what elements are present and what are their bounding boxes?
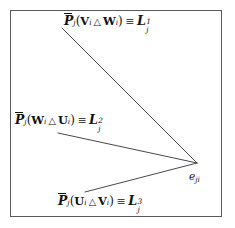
symmetric-difference-icon: △	[46, 116, 57, 126]
vertex-label: eji	[189, 170, 200, 182]
ray-1-result-superscript: 1	[146, 18, 151, 25]
vertex-label-subscript: ji	[195, 175, 200, 184]
projection-operator-icon: P	[64, 14, 73, 27]
ray-3-arg-right: V	[98, 196, 107, 207]
ray-3-result-subscript: j	[137, 206, 139, 213]
projection-operator-icon: P	[15, 113, 24, 126]
ray-1-label: Pj(Vi△Wi)≡L1j	[64, 14, 151, 35]
ray-1-expression: Pj(Vi△Wi)≡L1j	[64, 14, 151, 35]
ray-3-result-symbol: L	[128, 195, 137, 208]
ray-2-arg-right: U	[58, 115, 68, 126]
symmetric-difference-icon: △	[87, 197, 98, 207]
ray-3-label: Pj(Ui△Vi)≡L3j	[58, 194, 142, 215]
ray-1-arg-left: V	[80, 16, 89, 27]
ray-1-relation: ≡	[123, 16, 137, 27]
ray-2-arg-left: W	[31, 115, 44, 126]
ray-1-result-subscript: j	[146, 26, 148, 33]
ray-3-expression: Pj(Ui△Vi)≡L3j	[58, 194, 142, 215]
ray-1-result-symbol: L	[137, 15, 146, 28]
ray-2-result-symbol: L	[89, 114, 98, 127]
ray-3-result-superscript: 3	[137, 198, 142, 205]
ray-2-result-subscript: j	[98, 125, 100, 132]
ray-1-result-indices: 1j	[146, 18, 151, 34]
ray-3-result-indices: 3j	[137, 198, 142, 214]
ray-3-relation: ≡	[114, 196, 128, 207]
ray-3-arg-left: U	[74, 196, 84, 207]
ray-2-result-superscript: 2	[98, 117, 103, 124]
projection-operator-icon: P	[58, 194, 67, 207]
ray-2-relation: ≡	[75, 115, 89, 126]
ray-1-arg-right: W	[103, 16, 116, 27]
symmetric-difference-icon: △	[92, 17, 103, 27]
ray-2-expression: Pj(Wi△Ui)≡L2j	[15, 113, 103, 134]
figure-root: Pj(Vi△Wi)≡L1j Pj(Wi△Ui)≡L2j Pj(Ui△Vi)≡L3…	[0, 0, 235, 228]
ray-2-label: Pj(Wi△Ui)≡L2j	[15, 113, 103, 134]
ray-2-result-indices: 2j	[98, 117, 103, 133]
